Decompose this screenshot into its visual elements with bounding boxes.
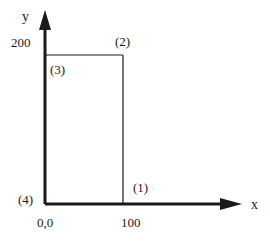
y-axis-arrow-icon: [39, 10, 51, 30]
point-label-2: (2): [115, 35, 130, 48]
x-axis-label: x: [251, 198, 258, 212]
point-label-1: (1): [133, 181, 148, 194]
y-axis-label: y: [22, 10, 29, 24]
origin-label: 0,0: [37, 216, 53, 229]
point-label-4: (4): [18, 193, 33, 206]
point-label-3: (3): [50, 63, 65, 76]
diagram-graphics: [0, 0, 270, 241]
x-tick-label-100: 100: [121, 216, 141, 229]
x-axis-arrow-icon: [220, 198, 242, 210]
coordinate-diagram: y 200 (2) (3) (4) (1) 0,0 100 x: [0, 0, 270, 241]
y-tick-label-200: 200: [11, 36, 31, 49]
